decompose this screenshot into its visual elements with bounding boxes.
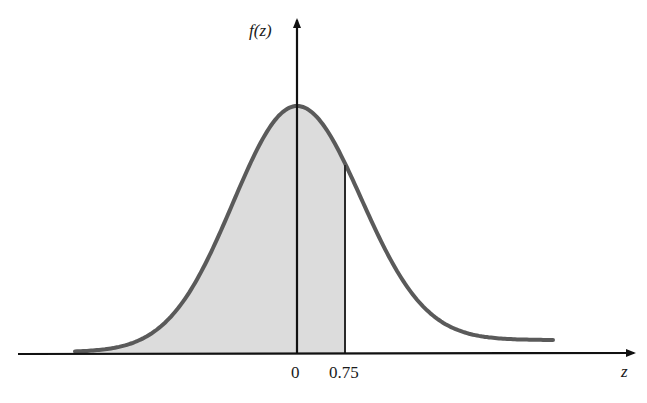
tick-label-zero: 0 bbox=[291, 363, 300, 383]
shaded-area bbox=[75, 106, 345, 354]
tick-label-cutoff: 0.75 bbox=[329, 363, 359, 383]
y-axis-label: f(z) bbox=[249, 21, 272, 41]
normal-curve-diagram bbox=[0, 0, 647, 403]
x-axis bbox=[18, 353, 634, 354]
x-axis-label: z bbox=[621, 362, 628, 382]
